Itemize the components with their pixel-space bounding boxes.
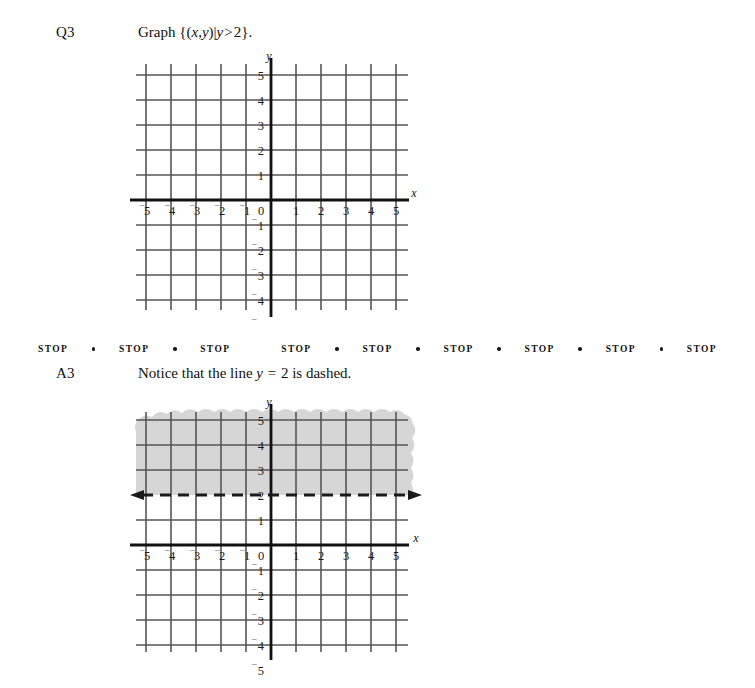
y-tick-labels: 5 4 3 2 1 ¯1 ¯2 ¯3 ¯4 ¯5 xyxy=(251,69,265,322)
answer-text-before: Notice that the line xyxy=(138,365,253,381)
svg-text:4: 4 xyxy=(368,204,375,218)
answer-text: Notice that the line y = 2 is dashed. xyxy=(138,365,351,382)
svg-text:3: 3 xyxy=(258,464,264,478)
svg-text:4: 4 xyxy=(368,549,375,563)
y-axis-label: y xyxy=(265,52,272,63)
bullet-dot-icon xyxy=(173,347,177,351)
svg-text:¯: ¯ xyxy=(251,268,257,278)
svg-text:¯: ¯ xyxy=(251,218,257,228)
stop-separator-band: STOP STOP STOP STOP STOP STOP STOP STOP … xyxy=(0,341,755,357)
stop-word: STOP xyxy=(281,344,311,354)
answer-value: 2 xyxy=(281,365,289,381)
bullet-dot-icon xyxy=(92,347,96,351)
svg-text:5: 5 xyxy=(144,549,150,563)
svg-text:3: 3 xyxy=(343,549,349,563)
svg-text:1: 1 xyxy=(258,564,264,578)
stop-word: STOP xyxy=(443,344,473,354)
svg-text:5: 5 xyxy=(144,204,150,218)
svg-text:3: 3 xyxy=(343,204,349,218)
svg-text:¯: ¯ xyxy=(251,638,257,648)
question-lead: Graph xyxy=(138,24,176,40)
svg-text:¯: ¯ xyxy=(251,588,257,598)
svg-text:¯: ¯ xyxy=(251,243,257,253)
svg-text:4: 4 xyxy=(258,294,265,308)
answer-equals: = xyxy=(267,365,277,381)
answer-row: A3 Notice that the line y = 2 is dashed. xyxy=(0,365,755,389)
arrowhead-right xyxy=(408,490,422,500)
x-axis-label: x xyxy=(412,531,419,545)
svg-text:4: 4 xyxy=(169,204,176,218)
question-coordinate-grid: x y ¯5 ¯4 ¯3 ¯2 ¯1 0 1 2 3 4 5 5 4 3 2 1… xyxy=(128,52,418,322)
svg-text:5: 5 xyxy=(393,204,399,218)
svg-text:2: 2 xyxy=(258,244,264,258)
set-bar: )| xyxy=(209,24,217,40)
x-tick-labels: ¯5 ¯4 ¯3 ¯2 ¯1 0 1 2 3 4 5 xyxy=(139,204,399,218)
svg-text:1: 1 xyxy=(293,204,299,218)
question-tag: Q3 xyxy=(56,24,75,41)
svg-text:2: 2 xyxy=(258,589,264,603)
bullet-dot-icon xyxy=(660,347,664,351)
answer-grid-svg: x y ¯5 ¯4 ¯3 ¯2 ¯1 0 1 2 3 4 5 5 4 3 2 1… xyxy=(128,390,428,680)
svg-text:3: 3 xyxy=(258,269,264,283)
x-axis-label: x xyxy=(410,186,417,200)
svg-text:1: 1 xyxy=(244,204,250,218)
svg-text:4: 4 xyxy=(169,549,176,563)
bullet-dot-icon xyxy=(335,347,339,351)
svg-text:2: 2 xyxy=(318,204,324,218)
svg-text:2: 2 xyxy=(318,549,324,563)
svg-text:3: 3 xyxy=(194,549,200,563)
bullet-dot-icon xyxy=(578,347,582,351)
var-y: y xyxy=(202,24,209,40)
svg-text:¯: ¯ xyxy=(251,663,257,673)
svg-text:1: 1 xyxy=(258,169,264,183)
stop-word: STOP xyxy=(525,344,555,354)
svg-text:4: 4 xyxy=(258,639,265,653)
answer-tag: A3 xyxy=(56,365,75,382)
bullet-dot-icon xyxy=(497,347,501,351)
set-open: {( xyxy=(179,24,191,40)
stop-word: STOP xyxy=(200,344,230,354)
answer-coordinate-grid: x y ¯5 ¯4 ¯3 ¯2 ¯1 0 1 2 3 4 5 5 4 3 2 1… xyxy=(128,390,428,680)
stop-word: STOP xyxy=(38,344,68,354)
svg-text:0: 0 xyxy=(258,549,264,563)
svg-text:5: 5 xyxy=(393,549,399,563)
answer-var-y: y xyxy=(256,365,263,381)
svg-text:2: 2 xyxy=(258,144,264,158)
svg-text:¯: ¯ xyxy=(251,293,257,303)
shaded-region-y-greater-than-2 xyxy=(135,409,415,495)
svg-text:4: 4 xyxy=(258,94,265,108)
x-tick-labels: ¯5 ¯4 ¯3 ¯2 ¯1 0 1 2 3 4 5 xyxy=(139,549,399,563)
question-prompt: Graph {(x,y)|y>2}. xyxy=(138,24,252,41)
relation-operator: > xyxy=(223,24,233,40)
y-axis-label: y xyxy=(265,395,272,409)
question-row: Q3 Graph {(x,y)|y>2}. xyxy=(0,24,755,48)
svg-text:1: 1 xyxy=(293,549,299,563)
stop-word: STOP xyxy=(119,344,149,354)
svg-text:3: 3 xyxy=(258,614,264,628)
svg-text:¯: ¯ xyxy=(251,318,257,322)
svg-text:5: 5 xyxy=(258,414,264,428)
svg-text:3: 3 xyxy=(194,204,200,218)
svg-text:2: 2 xyxy=(219,549,225,563)
svg-text:5: 5 xyxy=(258,319,264,322)
svg-text:3: 3 xyxy=(258,119,264,133)
stop-word: STOP xyxy=(687,344,717,354)
stop-word: STOP xyxy=(606,344,636,354)
svg-text:5: 5 xyxy=(258,664,264,678)
stop-word: STOP xyxy=(362,344,392,354)
answer-text-after: is dashed. xyxy=(292,365,351,381)
svg-text:¯: ¯ xyxy=(251,613,257,623)
svg-text:2: 2 xyxy=(258,489,264,503)
svg-text:1: 1 xyxy=(258,514,264,528)
set-close: }. xyxy=(241,24,252,40)
question-grid-svg: x y ¯5 ¯4 ¯3 ¯2 ¯1 0 1 2 3 4 5 5 4 3 2 1… xyxy=(128,52,418,322)
svg-text:2: 2 xyxy=(219,204,225,218)
svg-text:5: 5 xyxy=(258,69,264,83)
bullet-dot-icon xyxy=(416,347,420,351)
svg-text:1: 1 xyxy=(244,549,250,563)
svg-text:¯: ¯ xyxy=(251,563,257,573)
svg-text:4: 4 xyxy=(258,439,265,453)
svg-text:1: 1 xyxy=(258,219,264,233)
svg-text:0: 0 xyxy=(258,204,264,218)
